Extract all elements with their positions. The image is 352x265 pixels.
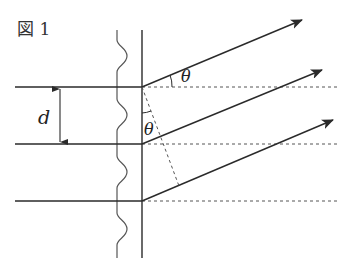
diffracted-ray-1 [142,20,302,87]
diffracted-ray-2 [142,70,322,144]
figure-title: 図 1 [17,19,50,39]
spacing-label: d [38,106,50,128]
theta-label-inner: θ [144,120,154,139]
theta-label-top: θ [181,67,191,86]
angle-arc-top [170,75,172,87]
angle-arc-inner [142,111,151,113]
diffraction-diagram: 図 1 θ θ d [0,0,352,265]
